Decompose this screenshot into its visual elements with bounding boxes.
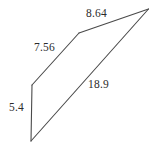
dimension-label-top: 8.64 xyxy=(86,7,107,19)
dimension-label-diagonal: 18.9 xyxy=(88,78,109,90)
edge-vertical-line xyxy=(31,85,32,141)
geometry-figure: 8.64 7.56 5.4 18.9 xyxy=(0,0,150,152)
figure-canvas xyxy=(0,0,150,152)
dimension-label-upper-left: 7.56 xyxy=(34,41,55,53)
dimension-label-vertical: 5.4 xyxy=(9,101,24,113)
